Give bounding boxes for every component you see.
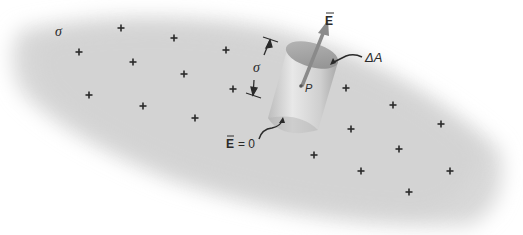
inside-field-equals-zero: = 0: [238, 137, 255, 151]
gaussian-pillbox-diagram: σ σ E P ΔA E = 0: [0, 0, 523, 235]
cylinder-height-label: σ: [253, 60, 261, 75]
point-p-label: P: [305, 82, 313, 94]
point-p-dot: [299, 84, 303, 88]
conductor-surface: [13, 17, 503, 226]
surface-charge-label: σ: [55, 24, 63, 39]
inside-field-E: E: [226, 137, 234, 151]
field-vector-label: E: [325, 14, 333, 28]
area-label: ΔA: [364, 50, 382, 65]
